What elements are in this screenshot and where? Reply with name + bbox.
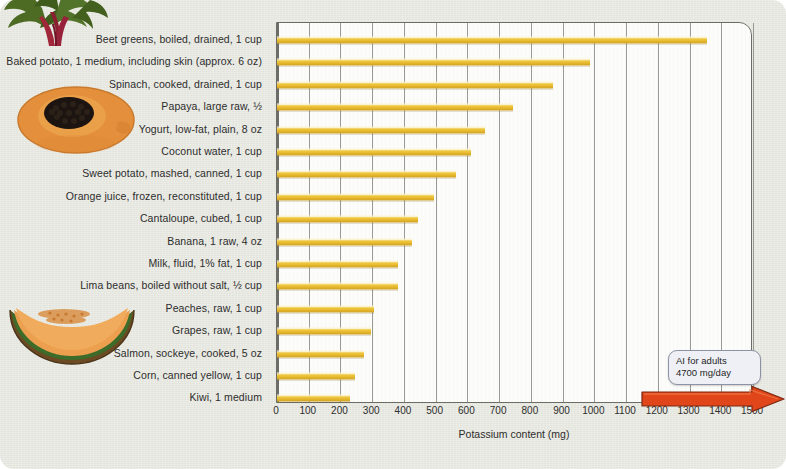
bar-row [277,230,753,252]
bar [277,305,374,312]
bar [277,350,364,357]
x-tick-label: 800 [522,405,539,416]
x-tick-label: 200 [331,405,348,416]
bar-row [277,208,753,230]
bar-row [277,29,753,51]
category-label: Cantaloupe, cubed, 1 cup [140,212,262,224]
bar-row [277,74,753,96]
bar [277,372,355,379]
bar [277,328,371,335]
bar [277,126,485,133]
x-tick-label: 300 [363,405,380,416]
bar-row [277,163,753,185]
x-tick-label: 700 [490,405,507,416]
callout-line-1: AI for adults [676,355,754,367]
bar-row [277,51,753,73]
category-label: Papaya, large raw, ½ [161,100,262,112]
bar-row [277,253,753,275]
category-label: Salmon, sockeye, cooked, 5 oz [114,347,262,359]
category-label: Lima beans, boiled without salt, ½ cup [80,279,262,291]
plot-area [276,22,752,403]
category-label: Sweet potato, mashed, canned, 1 cup [82,167,262,179]
bar [277,283,398,290]
category-label: Corn, canned yellow, 1 cup [133,369,262,381]
ai-callout-box: AI for adults 4700 mg/day [668,350,761,385]
bar [277,193,434,200]
ai-reference-arrow-icon [640,386,786,412]
category-label: Peaches, raw, 1 cup [166,302,262,314]
category-label: Yogurt, low-fat, plain, 8 oz [139,123,262,135]
x-tick-label: 1000 [582,405,604,416]
bar-row [277,298,753,320]
bar [277,216,418,223]
category-label: Beet greens, boiled, drained, 1 cup [96,33,262,45]
category-label: Coconut water, 1 cup [161,145,262,157]
x-tick-label: 100 [299,405,316,416]
bar-row [277,96,753,118]
bar [277,36,707,43]
category-label: Banana, 1 raw, 4 oz [167,235,262,247]
category-label: Grapes, raw, 1 cup [172,324,262,336]
bar [277,104,513,111]
bar-row [277,141,753,163]
category-label: Milk, fluid, 1% fat, 1 cup [149,257,262,269]
category-label: Baked potato, 1 medium, including skin (… [6,55,262,67]
category-label: Orange juice, frozen, reconstituted, 1 c… [66,190,262,202]
callout-line-2: 4700 mg/day [676,367,754,379]
x-tick-label: 500 [426,405,443,416]
category-label: Spinach, cooked, drained, 1 cup [109,78,262,90]
gridline-1500 [753,23,754,402]
bar [277,59,590,66]
x-axis-title: Potassium content (mg) [276,428,752,440]
bar [277,171,456,178]
bar [277,395,350,402]
x-tick-label: 400 [395,405,412,416]
category-label: Kiwi, 1 medium [189,391,262,403]
bar-row [277,118,753,140]
bar-row [277,186,753,208]
bar [277,260,398,267]
bar-row [277,275,753,297]
bar [277,148,471,155]
x-tick-label: 600 [458,405,475,416]
category-label-column: Beet greens, boiled, drained, 1 cupBaked… [0,22,270,403]
x-tick-label: 1100 [614,405,636,416]
bar [277,81,553,88]
potassium-content-figure: Beet greens, boiled, drained, 1 cupBaked… [0,0,786,469]
x-tick-label: 900 [553,405,570,416]
x-tick-label: 0 [273,405,279,416]
bar-row [277,320,753,342]
bar [277,238,412,245]
